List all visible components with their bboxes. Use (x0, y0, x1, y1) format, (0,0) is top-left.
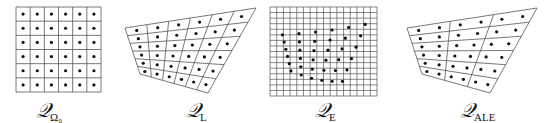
particle-dot (500, 56, 503, 59)
particle-dot (298, 40, 301, 43)
particle-dot (64, 55, 67, 58)
panel-omega0-grid (16, 7, 101, 92)
particle-dot (298, 49, 301, 52)
particle-dot (521, 15, 524, 18)
particle-dot (78, 69, 81, 72)
particle-dot (140, 53, 143, 56)
particle-dot (219, 18, 222, 21)
panel-eulerian-grid (270, 7, 377, 96)
label-eulerian: 𝒬E (315, 98, 336, 122)
particle-dot (21, 55, 24, 58)
particle-dot (78, 55, 81, 58)
particle-dot (64, 27, 67, 30)
mesh-line (410, 22, 530, 36)
label-ale-subscript: ALE (474, 111, 495, 123)
particle-dot (450, 75, 453, 78)
particle-dot (324, 59, 327, 62)
particle-dot (459, 23, 462, 26)
label-omega0-symbol: 𝒬 (36, 98, 50, 122)
particle-dot (36, 83, 39, 86)
particle-dot (21, 83, 24, 86)
mesh-line (407, 8, 537, 28)
particle-dot (142, 62, 145, 65)
mesh-line (130, 36, 240, 43)
particle-dot (198, 20, 201, 23)
label-lagrangian-symbol: 𝒬 (186, 98, 200, 122)
particle-dot (334, 69, 337, 72)
particle-dot (490, 43, 493, 46)
particle-dot (438, 35, 441, 38)
particle-dot (281, 33, 284, 36)
particle-dot (438, 45, 441, 48)
label-lagrangian: 𝒬L (186, 98, 207, 122)
particle-dot (320, 79, 323, 82)
particle-dot (469, 55, 472, 58)
particle-dot (64, 41, 67, 44)
particle-dot (92, 55, 95, 58)
particle-dot (341, 80, 344, 83)
particle-dot (175, 34, 178, 37)
particle-dot (300, 73, 303, 76)
particle-dot (312, 49, 315, 52)
particle-dot (507, 42, 510, 45)
label-eulerian-symbol: 𝒬 (315, 98, 329, 122)
particle-dot (21, 41, 24, 44)
particle-dot (64, 69, 67, 72)
particle-dot (180, 78, 183, 81)
particle-dot (331, 80, 334, 83)
particle-dot (284, 48, 287, 51)
particle-dot (420, 45, 423, 48)
particle-dot (204, 83, 207, 86)
particle-dot (36, 12, 39, 15)
particle-dot (345, 68, 348, 71)
particle-dot (138, 45, 141, 48)
particle-dot (233, 29, 236, 32)
particle-dot (36, 69, 39, 72)
particle-dot (155, 73, 158, 76)
particle-dot (453, 54, 456, 57)
mesh-line (422, 74, 490, 93)
particle-dot (438, 26, 441, 29)
particle-dot (344, 37, 347, 40)
particle-dot (156, 26, 159, 29)
particle-dot (92, 27, 95, 30)
particle-dot (92, 12, 95, 15)
particle-dot (495, 30, 498, 33)
particle-dot (177, 23, 180, 26)
particle-dot (21, 27, 24, 30)
particle-dot (50, 69, 53, 72)
particle-dot (350, 57, 353, 60)
particle-dot (78, 12, 81, 15)
particle-dot (485, 55, 488, 58)
particle-dot (36, 41, 39, 44)
particle-dot (472, 43, 475, 46)
panel-ale-mesh (407, 8, 537, 93)
particle-dot (191, 43, 194, 46)
particle-dot (156, 35, 159, 38)
particle-dot (364, 23, 367, 26)
particle-dot (64, 12, 67, 15)
particle-dot (192, 80, 195, 83)
particle-dot (64, 83, 67, 86)
particle-dot (156, 45, 159, 48)
particle-dot (36, 55, 39, 58)
particle-dot (455, 44, 458, 47)
particle-dot (326, 49, 329, 52)
particle-dot (168, 75, 171, 78)
label-omega0-subscript: Ω₀ (50, 111, 62, 123)
mesh-line (412, 36, 521, 43)
particle-dot (425, 70, 428, 73)
particle-dot (289, 69, 292, 72)
particle-dot (322, 69, 325, 72)
particle-dot (21, 12, 24, 15)
particle-dot (299, 57, 302, 60)
particle-dot (457, 34, 460, 37)
particle-dot (36, 27, 39, 30)
particle-dot (354, 46, 357, 49)
particle-dot (462, 78, 465, 81)
particle-dot (340, 47, 343, 50)
particle-dot (78, 27, 81, 30)
particle-dot (203, 55, 206, 58)
particle-dot (92, 83, 95, 86)
particle-dot (240, 15, 243, 18)
